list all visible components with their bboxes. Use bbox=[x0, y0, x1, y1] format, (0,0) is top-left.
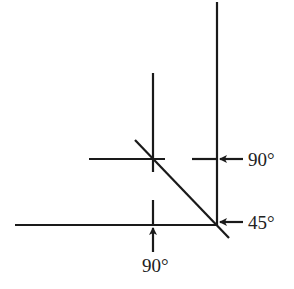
angle-diagram: 90° 45° 90° bbox=[0, 0, 294, 289]
label-bottom: 90° bbox=[142, 255, 169, 276]
label-right-lower: 45° bbox=[248, 212, 275, 233]
label-right-upper: 90° bbox=[248, 149, 275, 170]
diagonal-line bbox=[135, 140, 229, 238]
